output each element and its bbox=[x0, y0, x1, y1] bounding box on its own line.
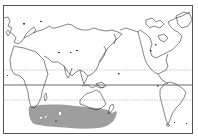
island-marker bbox=[55, 120, 57, 122]
world-map bbox=[0, 0, 198, 137]
island-marker bbox=[59, 112, 61, 115]
island-marker bbox=[40, 117, 42, 119]
island-marker bbox=[45, 116, 47, 118]
